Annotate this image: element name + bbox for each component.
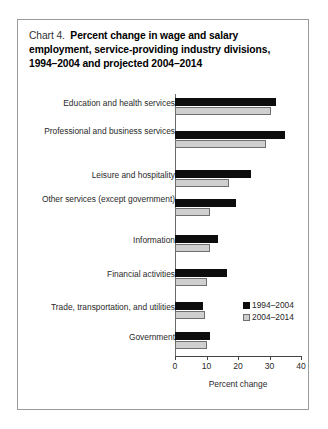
chart-legend: 1994–2004 2004–2014 [243,299,294,323]
bar-series2 [175,107,271,115]
x-tick-mark [270,356,271,360]
bar-series2 [175,341,207,349]
bar-series2 [175,140,266,148]
x-tick-mark [238,356,239,360]
category-label: Trade, transportation, and utilities [35,302,175,312]
bar-series1 [175,199,236,207]
chart-title-text: Percent change in wage and salary employ… [29,30,270,69]
bar-series2 [175,311,205,319]
bar-series1 [175,332,210,340]
category-label: Professional and business services [35,126,175,136]
x-tick-mark [207,356,208,360]
category-label: Financial activities [35,269,175,279]
x-axis-title: Percent change [175,379,301,389]
chart-figure: Chart 4. Percent change in wage and sala… [17,19,309,410]
bar-series2 [175,244,210,252]
category-label: Government [35,332,175,342]
category-label: Leisure and hospitality [35,170,175,180]
x-tick-label: 40 [289,361,313,371]
x-tick-label: 20 [226,361,250,371]
category-label: Education and health services [35,98,175,108]
x-tick-label: 0 [163,361,187,371]
legend-swatch-icon [243,314,250,321]
x-tick-label: 30 [258,361,282,371]
category-label: Other services (except government) [35,194,175,204]
category-label: Information [35,235,175,245]
legend-label: 2004–2014 [252,312,294,322]
x-tick-label: 10 [195,361,219,371]
bar-series1 [175,269,227,277]
plot-region: Education and health servicesProfessiona… [18,94,308,409]
legend-label: 1994–2004 [252,300,294,310]
bar-series1 [175,170,251,178]
legend-item: 2004–2014 [243,311,294,323]
chart-title: Chart 4. Percent change in wage and sala… [29,29,297,72]
bar-series1 [175,235,218,243]
bar-series2 [175,208,210,216]
chart-number-label: Chart 4. [29,30,65,41]
legend-swatch-icon [243,302,250,309]
bar-series1 [175,302,203,310]
legend-item: 1994–2004 [243,299,294,311]
bar-series2 [175,278,207,286]
bar-series2 [175,179,229,187]
x-tick-mark [175,356,176,360]
x-tick-mark [301,356,302,360]
bar-series1 [175,98,276,106]
bar-series1 [175,131,285,139]
